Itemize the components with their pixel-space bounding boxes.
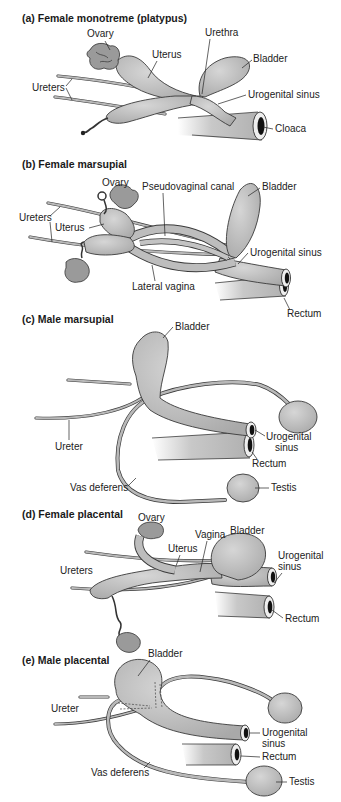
label-urogenital-d-2: sinus [278,561,301,572]
rectum-e [182,744,241,765]
panel-c-title: (c) Male marsupial [22,313,114,325]
label-testis-c: Testis [271,482,297,493]
label-ureter-e: Ureter [51,703,79,714]
label-lateral-vagina-b: Lateral vagina [132,281,195,292]
label-uterus-b: Uterus [55,222,84,233]
label-vas-deferens-c: Vas deferens [70,482,128,493]
panel-b-title: (b) Female marsupial [22,158,127,170]
testis-upper-c [279,401,317,433]
label-bladder-a: Bladder [253,53,288,64]
testis-upper-e [268,693,302,723]
label-ureter-c: Ureter [55,441,83,452]
label-ureters-d: Ureters [60,565,93,576]
label-ureters-b: Ureters [19,212,52,223]
label-ureters-a: Ureters [32,82,65,93]
label-urethra-a: Urethra [205,27,239,38]
label-cloaca-a: Cloaca [275,123,307,134]
bladder-e [115,659,245,740]
label-bladder-b: Bladder [262,181,297,192]
label-urogenital-sinus-a: Urogenital sinus [248,89,320,100]
panel-e-male-placental: (e) Male placental Bladder Ureter [22,648,315,796]
label-vas-deferens-e: Vas deferens [91,767,149,778]
label-urogenital-d-1: Urogenital [278,550,324,561]
label-rectum-d: Rectum [285,613,319,624]
reproductive-systems-diagram: (a) Female monotreme (platypus) [0,0,341,802]
label-urogenital-sinus-b: Urogenital sinus [250,247,322,258]
ovary-lower-d [116,633,140,653]
panel-e-title: (e) Male placental [22,654,110,666]
panel-b-female-marsupial: (b) Female marsupial [19,158,322,319]
label-rectum-e: Rectum [262,751,296,762]
panel-a-title: (a) Female monotreme (platypus) [22,12,187,24]
rectum-d [215,592,274,618]
panel-d-female-placental: (d) Female placental Ovary Vagina [22,508,324,652]
panel-d-title: (d) Female placental [22,508,123,520]
panel-c-male-marsupial: (c) Male marsupial Bladder Ureter Uroge [22,313,317,502]
testis-lower-c [227,474,259,502]
label-rectum-c: Rectum [252,458,286,469]
label-ovary-a: Ovary [87,28,114,39]
label-bladder-d: Bladder [230,525,265,536]
oviduct-lower-a [84,118,108,133]
ovary-upper-a [87,43,120,69]
label-bladder-e: Bladder [148,648,183,659]
label-bladder-c: Bladder [175,321,210,332]
label-urogenital-c-2: sinus [275,442,298,453]
testis-lower-e [246,766,282,796]
label-rectum-b: Rectum [287,308,321,319]
ovary-lower-a [81,131,85,135]
cloaca-opening [258,117,265,135]
label-ovary-d: Ovary [138,512,165,523]
label-urogenital-e-2: sinus [262,738,285,749]
ovary-upper-d [138,522,163,539]
label-urogenital-e-1: Urogenital [262,727,308,738]
panel-a-female-monotreme: (a) Female monotreme (platypus) [22,12,320,140]
label-urogenital-c-1: Urogenital [266,431,312,442]
label-uterus-a: Uterus [152,49,181,60]
label-pseudovaginal-canal-b: Pseudovaginal canal [142,181,234,192]
label-uterus-d: Uterus [168,543,197,554]
uterus-lower-b [84,235,134,255]
label-vagina-d: Vagina [195,529,226,540]
label-testis-e: Testis [289,776,315,787]
rectum-c [152,432,254,460]
label-ovary-b: Ovary [102,177,129,188]
